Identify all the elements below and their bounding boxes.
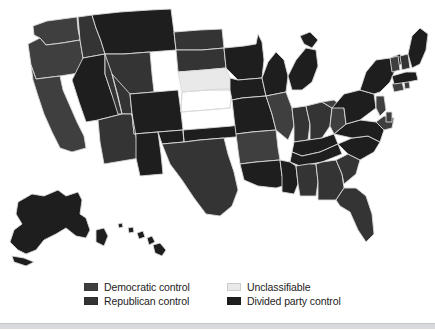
- state-ks: Kansas — Republican control: [181, 90, 232, 112]
- state-co: Colorado — Divided party control: [130, 90, 183, 134]
- state-mt: Montana — Divided party control: [92, 9, 176, 54]
- legend-swatch-democratic: [84, 283, 98, 291]
- legend-label-unclassifiable: Unclassifiable: [247, 282, 310, 293]
- legend-item-divided: Divided party control: [227, 294, 354, 308]
- state-me: Maine — Divided party control: [408, 28, 428, 68]
- state-ak: Alaska — Divided party control: [10, 190, 108, 266]
- state-oh: Ohio — Republican control: [306, 102, 332, 140]
- map-legend: Democratic control Unclassifiable Republ…: [84, 280, 354, 308]
- state-nd: North Dakota — Republican control: [174, 29, 224, 50]
- us-state-control-map-figure: Washington — Democratic controlOregon — …: [0, 0, 435, 331]
- legend-label-republican: Republican control: [104, 296, 189, 307]
- state-ma: Massachusetts — Divided party control: [392, 72, 418, 84]
- state-de: Delaware — Democratic control: [386, 112, 392, 122]
- legend-swatch-republican: [84, 297, 98, 305]
- legend-item-republican: Republican control: [84, 294, 227, 308]
- state-hi: Hawaii — Divided party control: [118, 223, 166, 256]
- legend-swatch-divided: [227, 297, 241, 305]
- state-tx: Texas — Republican control: [162, 138, 238, 216]
- state-ar: Arkansas — Democratic control: [236, 130, 280, 164]
- state-wi: Wisconsin — Divided party control: [262, 52, 288, 96]
- legend-item-democratic: Democratic control: [84, 280, 227, 294]
- legend-item-unclassifiable: Unclassifiable: [227, 280, 354, 294]
- legend-label-democratic: Democratic control: [104, 282, 190, 293]
- state-vt: Vermont — Democratic control: [390, 56, 400, 72]
- state-ms: Mississippi — Divided party control: [280, 160, 298, 194]
- legend-label-divided: Divided party control: [247, 296, 341, 307]
- map-canvas: Washington — Democratic controlOregon — …: [0, 2, 435, 274]
- legend-swatch-unclassifiable: [227, 283, 241, 291]
- footer-bar: [0, 323, 435, 329]
- us-map-svg: Washington — Democratic controlOregon — …: [0, 2, 435, 274]
- state-fl: Florida — Republican control: [336, 188, 374, 242]
- state-mi: Michigan — Divided party control: [288, 32, 318, 90]
- state-ne: Nebraska — Unclassifiable: [178, 68, 234, 92]
- states-layer: Washington — Democratic controlOregon — …: [10, 9, 428, 266]
- state-mn: Minnesota — Divided party control: [224, 34, 264, 80]
- state-al: Alabama — Republican control: [296, 164, 318, 196]
- state-nj: New Jersey — Democratic control: [376, 96, 386, 116]
